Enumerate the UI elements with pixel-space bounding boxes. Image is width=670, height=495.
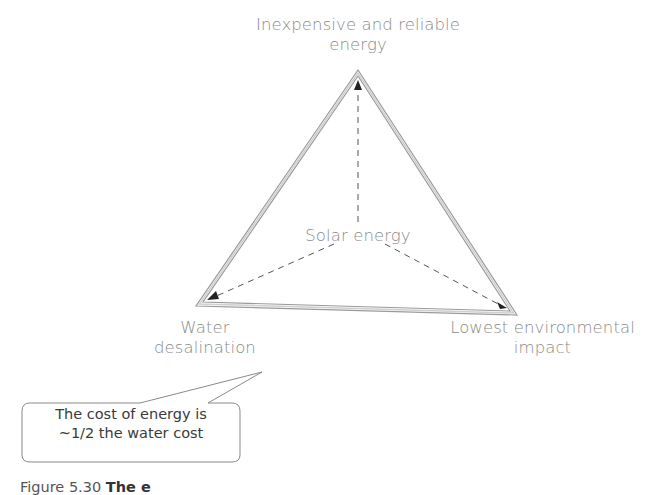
vertex-label-bottom-right-line2: impact <box>410 338 670 358</box>
vertex-label-top-line2: energy <box>218 35 498 55</box>
center-label-text: Solar energy <box>305 226 410 245</box>
vertex-label-top: Inexpensive and reliable energy <box>218 15 498 55</box>
center-label: Solar energy <box>298 226 418 246</box>
arrowhead-bottom-left <box>207 291 219 300</box>
vertex-label-bottom-left-line2: desalination <box>130 338 280 358</box>
spoke-to-bottom-right <box>385 244 500 305</box>
vertex-label-top-line1: Inexpensive and reliable <box>218 15 498 35</box>
callout-line1: The cost of energy is <box>22 405 240 424</box>
spoke-to-bottom-left <box>212 244 334 298</box>
callout-text: The cost of energy is ~1/2 the water cos… <box>22 405 240 443</box>
triangle-mid-edge <box>200 73 514 313</box>
arrowhead-top <box>354 80 362 90</box>
callout-line2: ~1/2 the water cost <box>22 424 240 443</box>
figure-caption-text: The e <box>106 479 151 495</box>
vertex-label-bottom-left-line1: Water <box>130 318 280 338</box>
figure-caption: Figure 5.30 The e <box>20 479 151 495</box>
triangle-outer-edge <box>196 70 517 315</box>
figure-caption-prefix: Figure 5.30 <box>20 479 101 495</box>
vertex-label-bottom-right: Lowest environmental impact <box>410 318 670 358</box>
vertex-label-bottom-left: Water desalination <box>130 318 280 358</box>
vertex-label-bottom-right-line1: Lowest environmental <box>410 318 670 338</box>
triangle-inner-edge <box>203 76 510 311</box>
